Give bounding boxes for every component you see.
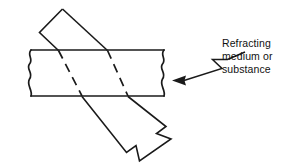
refracting-medium-slab [28, 50, 164, 96]
refraction-diagram: Refracting medium or substance [0, 0, 284, 166]
incident-ray-right-edge [63, 9, 108, 51]
refracted-ray-left-edge [59, 51, 83, 97]
refracted-ray-dashed [59, 51, 129, 97]
emergent-ray-arrow [82, 97, 171, 162]
refraction-illustration: Refracting medium or substance [0, 0, 284, 166]
refracted-ray-right-edge [108, 51, 129, 97]
callout-line-1: Refracting [222, 37, 271, 49]
slab-right-torn-edge [161, 50, 164, 96]
incident-ray-left-edge [40, 9, 63, 51]
callout-line-3: substance [222, 63, 271, 75]
refracting-medium-callout: Refracting medium or substance [222, 37, 273, 75]
callout-line-2: medium or [222, 50, 273, 62]
callout-arrowhead-icon [172, 76, 186, 86]
emergent-ray-outline [82, 97, 171, 162]
slab-left-torn-edge [28, 50, 31, 96]
incident-ray-arrow [40, 9, 108, 51]
